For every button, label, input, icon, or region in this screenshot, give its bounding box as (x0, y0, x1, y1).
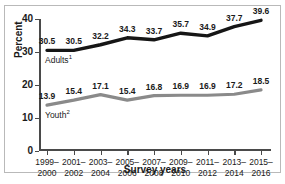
data-label-adults: 37.7 (226, 13, 243, 23)
data-label-youth: 13.9 (39, 91, 56, 101)
data-label-adults: 34.9 (199, 22, 216, 32)
x-tick-mark (208, 151, 209, 155)
x-tick-mark (127, 151, 128, 155)
data-label-youth: 18.5 (253, 76, 270, 86)
data-label-youth: 16.9 (172, 81, 189, 91)
y-tick-label: 20 (22, 79, 33, 90)
x-tick-mark (74, 151, 75, 155)
x-tick-mark (47, 151, 48, 155)
y-tick-label: 40 (22, 13, 33, 24)
data-label-youth: 17.2 (226, 80, 243, 90)
data-label-adults: 30.5 (65, 36, 82, 46)
x-tick-mark (261, 151, 262, 155)
data-label-adults: 34.3 (119, 24, 136, 34)
x-tick-mark (234, 151, 235, 155)
y-tick-label: 10 (22, 112, 33, 123)
figure-top-caption (4, 0, 281, 3)
series-label-youth: Youth2 (45, 109, 70, 120)
data-label-youth: 16.8 (146, 82, 163, 92)
plot-area: 010203040 30.530.532.234.333.735.734.937… (39, 19, 271, 151)
data-label-adults: 30.5 (39, 36, 56, 46)
data-label-adults: 32.2 (92, 31, 109, 41)
series-label-adults: Adults1 (45, 54, 72, 65)
y-tick-label: 0 (27, 145, 33, 156)
chart-figure: Percent 010203040 30.530.532.234.333.735… (0, 0, 285, 184)
data-label-youth: 15.4 (119, 86, 136, 96)
figure-bottom-caption (4, 176, 281, 184)
x-tick-mark (181, 151, 182, 155)
data-label-adults: 39.6 (253, 6, 270, 16)
data-label-adults: 35.7 (172, 19, 189, 29)
y-tick-label: 30 (22, 46, 33, 57)
x-axis-title: Survey years (39, 164, 271, 175)
data-label-youth: 17.1 (92, 81, 109, 91)
data-label-youth: 15.4 (65, 86, 82, 96)
chart-panel: Percent 010203040 30.530.532.234.333.735… (4, 5, 281, 173)
x-tick-mark (154, 151, 155, 155)
x-tick-mark (101, 151, 102, 155)
data-label-youth: 16.9 (199, 81, 216, 91)
data-label-adults: 33.7 (146, 26, 163, 36)
